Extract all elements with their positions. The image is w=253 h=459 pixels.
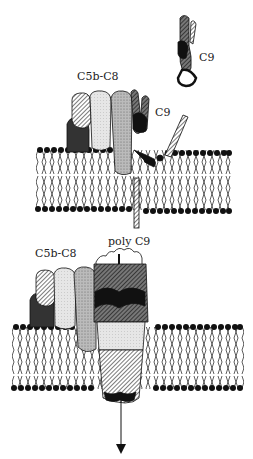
label-poly-c9: poly C9: [108, 235, 150, 248]
c8-subunit: [111, 91, 132, 175]
ion-flow-arrow: [116, 400, 126, 454]
free-c9: [178, 16, 196, 87]
pore-transmembrane: [97, 322, 145, 350]
c7-subunit: [90, 91, 111, 150]
c7-subunit-bottom: [54, 268, 76, 329]
poly-c9-pore: [94, 248, 148, 403]
label-bound-c9: C9: [155, 106, 170, 119]
top-membrane: [35, 147, 232, 214]
membrane-attack-diagram: [0, 0, 253, 459]
label-c5b-c8-top: C5b-C8: [77, 70, 119, 83]
label-c5b-c8-bottom: C5b-C8: [35, 247, 77, 260]
c6-subunit: [72, 93, 91, 128]
label-free-c9: C9: [199, 51, 214, 64]
arrow-down-icon: [116, 444, 126, 454]
c8-subunit-bottom: [74, 267, 96, 352]
c6-subunit-bottom: [36, 270, 55, 306]
